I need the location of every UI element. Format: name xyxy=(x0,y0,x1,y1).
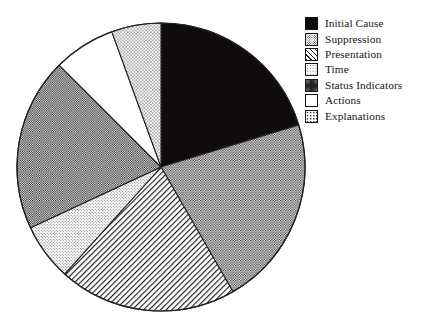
legend-item-label: Explanations xyxy=(325,110,385,123)
legend-item-status-indicators[interactable]: Status Indicators xyxy=(305,78,437,93)
pie-slice-group xyxy=(17,23,305,311)
legend-swatch-icon xyxy=(305,63,318,76)
legend-item-presentation[interactable]: Presentation xyxy=(305,47,437,62)
legend-item-label: Presentation xyxy=(325,48,382,61)
legend-swatch-icon xyxy=(305,79,318,92)
legend-swatch-icon xyxy=(305,48,318,61)
legend-item-label: Status Indicators xyxy=(325,79,402,92)
legend-swatch-icon xyxy=(305,110,318,123)
legend-swatch-icon xyxy=(305,33,318,46)
legend-item-explanations[interactable]: Explanations xyxy=(305,108,437,123)
pie-chart-figure: Initial Cause Suppression Presentation T… xyxy=(0,0,439,331)
legend-item-actions[interactable]: Actions xyxy=(305,93,437,108)
legend-item-label: Time xyxy=(325,63,349,76)
legend-swatch-icon xyxy=(305,94,318,107)
legend-item-label: Actions xyxy=(325,94,361,107)
legend-item-label: Suppression xyxy=(325,33,381,46)
chart-legend: Initial Cause Suppression Presentation T… xyxy=(305,16,437,124)
legend-item-label: Initial Cause xyxy=(325,17,384,30)
legend-item-suppression[interactable]: Suppression xyxy=(305,31,437,46)
legend-item-time[interactable]: Time xyxy=(305,62,437,77)
legend-item-initial-cause[interactable]: Initial Cause xyxy=(305,16,437,31)
legend-swatch-icon xyxy=(305,17,318,30)
